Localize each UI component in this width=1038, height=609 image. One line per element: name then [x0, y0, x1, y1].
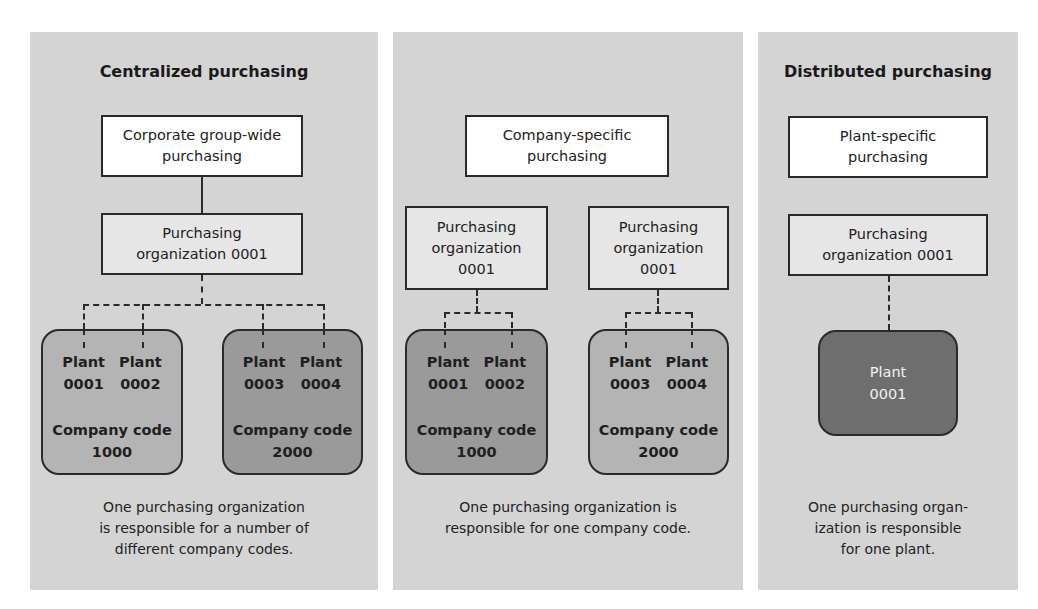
box-label-line: organization 0001: [136, 244, 268, 265]
caption-line: One purchasing organization: [30, 497, 378, 518]
plant-label: Plant: [870, 361, 907, 383]
connector-line: [83, 329, 85, 348]
plant-number: 0001: [870, 383, 907, 405]
plant-0003: Plant 0003: [243, 351, 286, 395]
plant-label: Plant: [484, 351, 527, 373]
panel-distributed-purchasing: Distributed purchasing Plant-specific pu…: [758, 32, 1018, 590]
plant-label: Plant: [62, 351, 105, 373]
panel-company-specific-purchasing: Company-specific purchasing Purchasing o…: [393, 32, 743, 590]
connector-line: [444, 312, 511, 314]
box-label-line: Purchasing: [619, 217, 698, 238]
connector-line: [511, 329, 513, 348]
caption-line: One purchasing organ-: [758, 497, 1018, 518]
box-label-line: organization 0001: [822, 245, 954, 266]
purchasing-organization-box: Purchasing organization 0001: [405, 206, 548, 290]
plant-0004: Plant 0004: [666, 351, 709, 395]
company-code-1000-box: Plant 0001 Plant 0002 Company code 1000: [405, 329, 548, 475]
box-label-line: purchasing: [848, 147, 928, 168]
caption-line: One purchasing organization is: [393, 497, 743, 518]
panel-caption: One purchasing organization is responsib…: [393, 497, 743, 539]
plant-0002: Plant 0002: [119, 351, 162, 395]
connector-line: [323, 329, 325, 348]
box-label-line: purchasing: [527, 146, 607, 167]
company-code-1000-box: Plant 0001 Plant 0002 Company code 1000: [41, 329, 183, 475]
box-label-line: Plant-specific: [840, 126, 937, 147]
company-code-2000-box: Plant 0003 Plant 0004 Company code 2000: [588, 329, 729, 475]
company-code-number: 2000: [272, 441, 312, 463]
company-code-label: Company code: [52, 419, 171, 441]
company-code-label: Company code: [417, 419, 536, 441]
plant-label: Plant: [666, 351, 709, 373]
company-code-label: Company code: [233, 419, 352, 441]
company-code-number: 1000: [456, 441, 496, 463]
connector-line: [476, 290, 478, 312]
plant-number: 0001: [64, 373, 104, 395]
plant-label: Plant: [243, 351, 286, 373]
connector-line: [142, 329, 144, 348]
plant-label: Plant: [609, 351, 652, 373]
connector-line: [625, 312, 691, 314]
connector-line: [444, 329, 446, 348]
caption-line: different company codes.: [30, 539, 378, 560]
corporate-group-wide-purchasing-box: Corporate group-wide purchasing: [101, 115, 303, 177]
panel-title: Distributed purchasing: [758, 62, 1018, 81]
caption-line: responsible for one company code.: [393, 518, 743, 539]
plant-0001: Plant 0001: [427, 351, 470, 395]
plant-number: 0001: [428, 373, 468, 395]
box-label-line: Purchasing: [437, 217, 516, 238]
panel-caption: One purchasing organization is responsib…: [30, 497, 378, 560]
connector-line: [691, 329, 693, 348]
box-label-line: organization: [613, 238, 703, 259]
plant-0002: Plant 0002: [484, 351, 527, 395]
connector-line: [201, 275, 203, 304]
caption-line: ization is responsible: [758, 518, 1018, 539]
purchasing-organization-box: Purchasing organization 0001: [788, 214, 988, 276]
purchasing-organization-box: Purchasing organization 0001: [101, 213, 303, 275]
plant-0001: Plant 0001: [62, 351, 105, 395]
plant-number: 0002: [120, 373, 160, 395]
purchasing-organization-box: Purchasing organization 0001: [588, 206, 729, 290]
box-label-line: 0001: [458, 259, 495, 280]
plant-label: Plant: [427, 351, 470, 373]
box-label-line: purchasing: [162, 146, 242, 167]
plant-0004: Plant 0004: [300, 351, 343, 395]
plant-number: 0003: [610, 373, 650, 395]
box-label-line: Purchasing: [162, 223, 241, 244]
box-label-line: 0001: [640, 259, 677, 280]
plant-0001-box: Plant 0001: [818, 330, 958, 436]
box-label-line: Purchasing: [848, 224, 927, 245]
plant-number: 0003: [244, 373, 284, 395]
connector-line: [888, 276, 890, 330]
company-specific-purchasing-box: Company-specific purchasing: [465, 115, 669, 177]
company-code-number: 2000: [638, 441, 678, 463]
plant-specific-purchasing-box: Plant-specific purchasing: [788, 116, 988, 178]
box-label-line: Corporate group-wide: [123, 125, 281, 146]
plant-number: 0002: [485, 373, 525, 395]
plant-number: 0004: [301, 373, 341, 395]
company-code-2000-box: Plant 0003 Plant 0004 Company code 2000: [222, 329, 363, 475]
connector-line: [262, 329, 264, 348]
connector-line: [201, 177, 203, 213]
plant-0003: Plant 0003: [609, 351, 652, 395]
plant-label: Plant: [119, 351, 162, 373]
connector-line: [83, 304, 323, 306]
box-label-line: organization: [431, 238, 521, 259]
plant-number: 0004: [667, 373, 707, 395]
caption-line: for one plant.: [758, 539, 1018, 560]
connector-line: [657, 290, 659, 312]
caption-line: is responsible for a number of: [30, 518, 378, 539]
connector-line: [625, 329, 627, 348]
company-code-label: Company code: [599, 419, 718, 441]
panel-title: Centralized purchasing: [30, 62, 378, 81]
panel-centralized-purchasing: Centralized purchasing Corporate group-w…: [30, 32, 378, 590]
company-code-number: 1000: [92, 441, 132, 463]
panel-caption: One purchasing organ- ization is respons…: [758, 497, 1018, 560]
box-label-line: Company-specific: [503, 125, 632, 146]
plant-label: Plant: [300, 351, 343, 373]
